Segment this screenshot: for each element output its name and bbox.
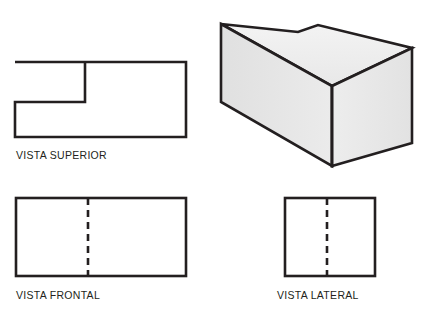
vista-frontal-label: VISTA FRONTAL xyxy=(16,290,100,301)
vista-superior-label: VISTA SUPERIOR xyxy=(16,150,107,161)
vista-lateral-label: VISTA LATERAL xyxy=(277,290,359,301)
diagram-canvas: VISTA SUPERIOR VISTA FRONTAL VISTA LATER… xyxy=(0,0,431,315)
vista-lateral-outline xyxy=(285,198,375,276)
